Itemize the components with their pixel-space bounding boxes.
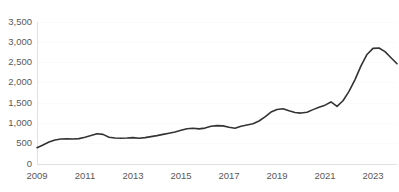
x-axis-tick-labels: 20092011201320152017201920212023 xyxy=(26,170,383,181)
line-chart: 05001,0001,5002,0002,5003,0003,500 20092… xyxy=(0,0,399,192)
x-tick-label-2023: 2023 xyxy=(362,170,383,181)
y-tick-label-1,500: 1,500 xyxy=(8,97,32,108)
chart-canvas: 05001,0001,5002,0002,5003,0003,500 20092… xyxy=(0,0,399,192)
x-tick-label-2009: 2009 xyxy=(26,170,47,181)
x-tick-label-2011: 2011 xyxy=(75,170,95,181)
x-tick-label-2021: 2021 xyxy=(314,170,335,181)
x-tick-label-2013: 2013 xyxy=(122,170,143,181)
axis-lines xyxy=(37,22,397,164)
y-axis-tick-labels: 05001,0001,5002,0002,5003,0003,500 xyxy=(8,16,32,169)
y-tick-label-3,500: 3,500 xyxy=(8,16,32,27)
y-tick-label-2,000: 2,000 xyxy=(8,76,32,87)
y-tick-label-1,000: 1,000 xyxy=(8,117,32,128)
x-tick-label-2019: 2019 xyxy=(266,170,287,181)
x-tick-label-2015: 2015 xyxy=(170,170,191,181)
y-tick-label-0: 0 xyxy=(27,158,32,169)
y-tick-label-500: 500 xyxy=(16,137,32,148)
x-tick-label-2017: 2017 xyxy=(218,170,239,181)
y-tick-label-2,500: 2,500 xyxy=(8,56,32,67)
y-tick-label-3,000: 3,000 xyxy=(8,36,32,47)
